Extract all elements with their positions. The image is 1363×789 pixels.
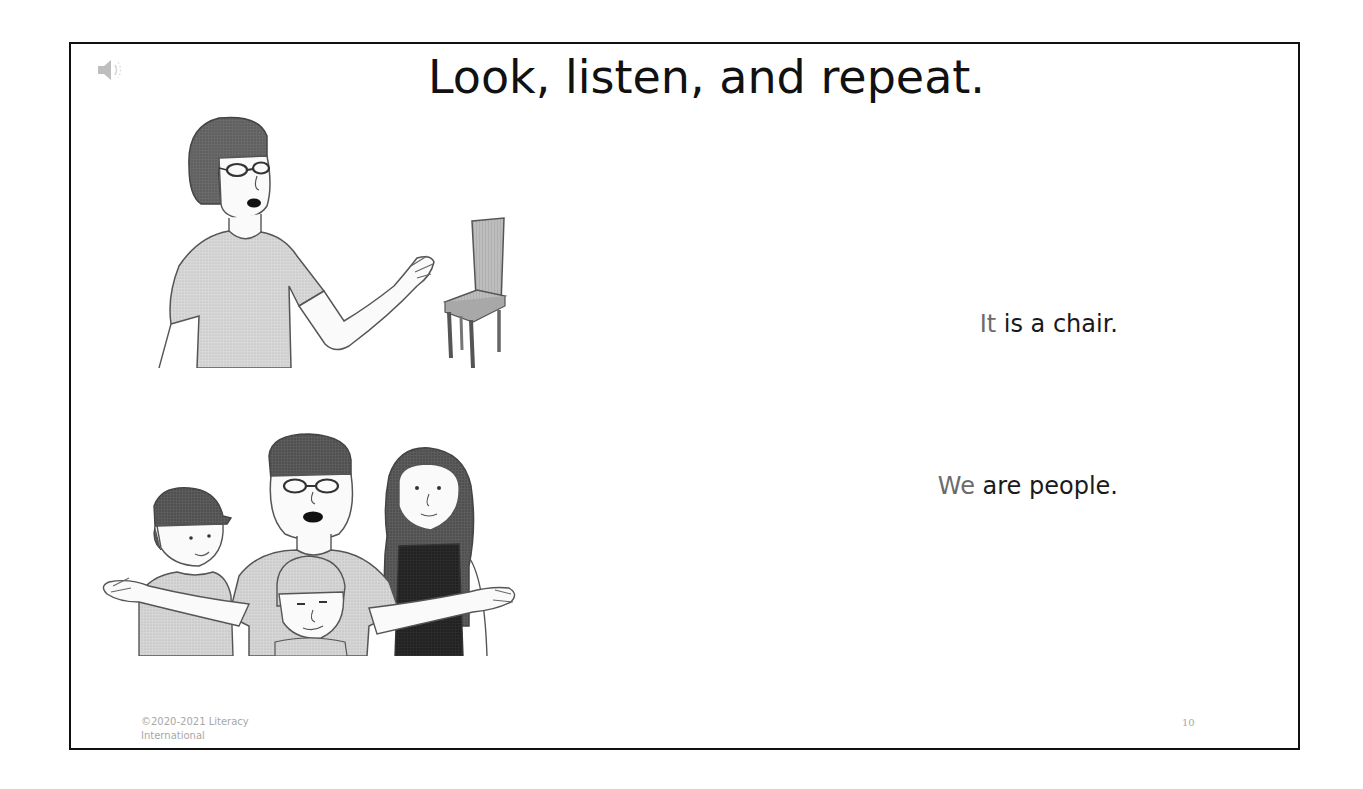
copyright-footer: ©2020-2021 Literacy International (141, 715, 271, 743)
family-group-illustration (99, 426, 519, 656)
sentence-rest: is a chair. (996, 310, 1118, 338)
slide: Look, listen, and repeat. (69, 42, 1300, 750)
sentence-rest: are people. (975, 472, 1118, 500)
pronoun-we: We (938, 472, 975, 500)
sentence-it-is-a-chair: It is a chair. (980, 310, 1118, 338)
pronoun-it: It (980, 310, 997, 338)
woman-pointing-at-chair-illustration (149, 106, 509, 368)
page-number: 10 (1182, 717, 1195, 728)
sentence-we-are-people: We are people. (938, 472, 1118, 500)
slide-title: Look, listen, and repeat. (71, 50, 1302, 104)
